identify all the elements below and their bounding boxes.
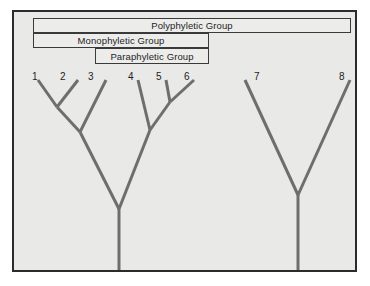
branch-taxon-3 bbox=[80, 80, 106, 132]
branch-node-5-6 bbox=[150, 102, 170, 130]
taxon-label-3: 3 bbox=[88, 72, 94, 82]
branch-taxon-4 bbox=[138, 80, 150, 130]
monophyletic-group-box: Monophyletic Group bbox=[33, 33, 209, 48]
branch-node-4-56 bbox=[119, 130, 150, 209]
monophyletic-group-label: Monophyletic Group bbox=[78, 35, 165, 46]
taxon-label-4: 4 bbox=[128, 72, 134, 82]
branch-taxon-1 bbox=[38, 80, 57, 107]
taxon-label-2: 2 bbox=[60, 72, 66, 82]
taxon-label-5: 5 bbox=[156, 72, 162, 82]
polyphyletic-group-label: Polyphyletic Group bbox=[151, 20, 233, 31]
branch-taxon-2 bbox=[57, 80, 78, 107]
diagram-frame: Polyphyletic Group Monophyletic Group Pa… bbox=[12, 10, 357, 272]
phylogenetic-tree-figure: Polyphyletic Group Monophyletic Group Pa… bbox=[0, 0, 370, 286]
taxon-label-7: 7 bbox=[254, 72, 260, 82]
paraphyletic-group-box: Paraphyletic Group bbox=[95, 48, 209, 64]
branch-taxon-6 bbox=[170, 80, 194, 102]
branch-node-1-2 bbox=[57, 107, 80, 132]
branch-node-12-3 bbox=[80, 132, 119, 209]
taxon-label-6: 6 bbox=[184, 72, 190, 82]
branch-taxon-5 bbox=[166, 80, 170, 102]
polyphyletic-group-box: Polyphyletic Group bbox=[33, 18, 351, 33]
branch-taxon-8 bbox=[298, 80, 350, 195]
taxon-label-1: 1 bbox=[32, 72, 38, 82]
branch-taxon-7 bbox=[245, 80, 298, 195]
taxon-label-8: 8 bbox=[339, 72, 345, 82]
paraphyletic-group-label: Paraphyletic Group bbox=[110, 51, 193, 62]
